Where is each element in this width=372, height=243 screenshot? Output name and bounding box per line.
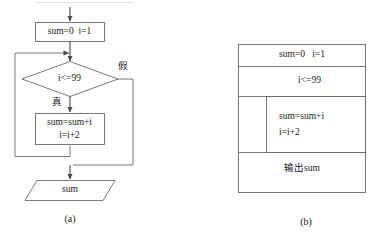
edge-label-false: 假	[112, 62, 134, 72]
ns-loop-body-box	[267, 97, 366, 153]
caption-a: (a)	[48, 214, 92, 225]
ns-row-condition-label: i<=99	[254, 76, 365, 86]
edge-label-true: 真	[46, 98, 68, 108]
ns-row-init-label: sum=0 i=1	[239, 50, 365, 60]
node-body-label-line2: i=i+2	[35, 131, 104, 141]
ns-row-body-line2-label: i=i+2	[279, 128, 365, 138]
node-body-label-line1: sum=sum+i	[35, 118, 104, 128]
node-init-label: sum=0 i=1	[35, 27, 104, 37]
node-condition-label: i<=99	[35, 74, 104, 84]
caption-b: (b)	[284, 217, 328, 228]
node-output-label: sum	[31, 185, 109, 195]
ns-row-body-line1-label: sum=sum+i	[279, 112, 365, 122]
figure-canvas: sum=0 i=1 i<=99 假 真 sum=sum+i i=i+2 sum …	[0, 0, 372, 243]
ns-row-output-label: 输出sum	[239, 164, 365, 174]
edge-loop-back-arrowhead	[64, 51, 70, 56]
